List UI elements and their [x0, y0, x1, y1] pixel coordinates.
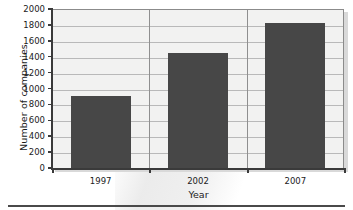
x-axis-title-text: Year [188, 189, 208, 200]
y-tick-label-1000: 1000 [23, 84, 45, 94]
gridline-x-2 [247, 10, 248, 168]
bar-2007 [265, 23, 325, 168]
x-tick-3 [344, 168, 346, 173]
y-tick-800 [48, 104, 52, 106]
bottom-rule [8, 205, 345, 207]
y-tick-600 [48, 120, 52, 122]
x-tick-label-2007: 2007 [285, 176, 307, 186]
y-tick-label-1200: 1200 [23, 68, 45, 78]
y-tick-label-1800: 1800 [23, 20, 45, 30]
gridline-x-1 [149, 10, 150, 168]
y-tick-1000 [48, 88, 52, 90]
y-tick-label-1600: 1600 [23, 36, 45, 46]
y-tick-1400 [48, 56, 52, 58]
x-tick-label-2002: 2002 [187, 176, 209, 186]
x-tick-1 [149, 168, 151, 173]
y-tick-label-400: 400 [29, 131, 45, 141]
x-tick-label-1997: 1997 [90, 176, 112, 186]
y-tick-1800 [48, 24, 52, 26]
y-tick-label-0: 0 [40, 163, 45, 173]
y-tick-1200 [48, 72, 52, 74]
y-tick-label-2000: 2000 [23, 4, 45, 14]
x-axis-title: Year [0, 189, 353, 200]
x-axis-line [51, 168, 345, 170]
y-tick-1600 [48, 40, 52, 42]
bar-1997 [71, 96, 131, 168]
y-tick-label-800: 800 [29, 99, 45, 109]
y-tick-2000 [48, 8, 52, 10]
y-tick-200 [48, 151, 52, 153]
y-tick-label-1400: 1400 [23, 52, 45, 62]
y-tick-label-200: 200 [29, 147, 45, 157]
y-axis-ticks: 0200400600800100012001400160018002000 [0, 0, 52, 210]
y-tick-label-600: 600 [29, 115, 45, 125]
x-tick-0 [52, 168, 54, 173]
bar-2002 [168, 53, 228, 168]
y-tick-400 [48, 135, 52, 137]
bar-chart-figure: Number of companies 02004006008001000120… [0, 0, 353, 210]
plot-area [52, 9, 344, 168]
x-tick-2 [247, 168, 249, 173]
